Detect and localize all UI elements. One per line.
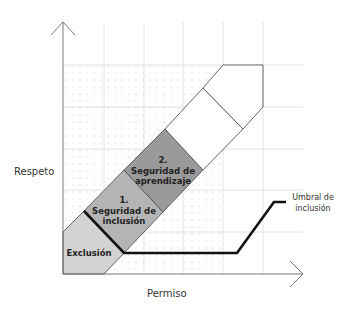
threshold-label-1: Umbral de — [292, 193, 334, 202]
zone-inclusion-label-1: Seguridad de — [92, 206, 156, 216]
zone-learner-label-2: aprendizaje — [135, 176, 191, 186]
y-axis-label: Respeto — [14, 166, 54, 177]
zone-inclusion-number: 1. — [119, 195, 128, 205]
zone-learner-number: 2. — [158, 155, 167, 165]
zone-inclusion-label-2: inclusión — [103, 216, 146, 226]
x-axis-label: Permiso — [147, 288, 187, 299]
threshold-label-2: inclusión — [295, 203, 330, 213]
safety-diagram: Respeto Permiso Exclusión 1. Seguridad d… — [0, 0, 347, 314]
zone-learner-label-1: Seguridad de — [131, 166, 195, 176]
zone-exclusion-label: Exclusión — [66, 248, 111, 258]
